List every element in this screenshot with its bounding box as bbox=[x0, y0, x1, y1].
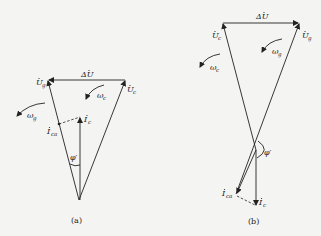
i-ca-dashed bbox=[59, 117, 80, 124]
i-ca-sub: ca bbox=[226, 193, 232, 199]
phasor-dots bbox=[38, 12, 305, 199]
phi-label: φ′ bbox=[70, 153, 78, 162]
u-c-sub: c bbox=[133, 89, 136, 95]
i-ca-sub: ca bbox=[51, 131, 57, 137]
phasor-diagrams: ΔU U g U c ω c ω g I c I ca φ′ (a) ΔU bbox=[0, 0, 321, 236]
omega-c-sub: c bbox=[216, 67, 219, 73]
omega-g-sub: g bbox=[278, 51, 282, 58]
omega-c-sub: c bbox=[103, 95, 106, 101]
u-g-sub: g bbox=[42, 82, 46, 89]
omega-g-sub: g bbox=[33, 115, 37, 122]
diagram-a: ΔU U g U c ω c ω g I c I ca φ′ (a) bbox=[17, 70, 136, 225]
phi-arc bbox=[70, 164, 80, 166]
i-ca-dashed bbox=[237, 196, 255, 205]
i-ca-vector bbox=[237, 150, 256, 193]
caption-b: (b) bbox=[248, 217, 259, 226]
u-g-sub: g bbox=[308, 35, 312, 42]
i-c-sub: c bbox=[263, 202, 266, 208]
u-c-vector bbox=[223, 24, 256, 150]
delta-u-label: ΔU bbox=[80, 70, 94, 79]
u-g-vector bbox=[48, 81, 79, 200]
phi-label: φ′ bbox=[264, 148, 272, 157]
diagram-b: ΔU U c U g ω c ω g φ′ I ca I c (b) bbox=[200, 12, 312, 226]
delta-u-label: ΔU bbox=[255, 12, 269, 21]
u-c-sub: c bbox=[218, 35, 221, 41]
i-c-sub: c bbox=[88, 119, 91, 125]
caption-a: (a) bbox=[71, 216, 82, 225]
